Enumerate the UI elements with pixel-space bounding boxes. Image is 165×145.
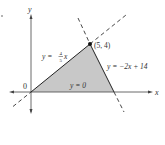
y-axis-arrow-down-icon <box>30 109 33 114</box>
line-neg2x-14-dashed-lower <box>114 92 124 112</box>
line-neg2x-14-dashed-upper <box>78 18 90 44</box>
line-4-5x-dashed <box>13 92 31 107</box>
y-axis-arrow-up-icon <box>30 14 33 19</box>
line-4-5x-dashed-upper <box>90 15 126 44</box>
svg-text:5: 5 <box>60 58 63 63</box>
bullet-marker <box>1 15 3 17</box>
region-diagram: y x 0 (5, 4) y = 4 5 x y = −2x + 14 y = … <box>0 0 165 145</box>
x-axis-arrow-right-icon <box>148 91 153 94</box>
svg-text:x: x <box>63 52 68 61</box>
x-axis-arrow-left-icon <box>9 91 14 94</box>
x-axis-label: x <box>154 88 159 97</box>
y-axis-label: y <box>27 5 32 14</box>
label-line-neg2x-14: y = −2x + 14 <box>106 62 148 71</box>
vertex-label: (5, 4) <box>94 41 111 50</box>
svg-text:4: 4 <box>60 51 63 56</box>
label-line-y0: y = 0 <box>69 81 86 90</box>
origin-label: 0 <box>23 82 27 91</box>
vertex-point <box>88 42 92 46</box>
label-line-4-5x: y = 4 5 x <box>41 51 68 63</box>
svg-text:y =: y = <box>41 52 52 61</box>
